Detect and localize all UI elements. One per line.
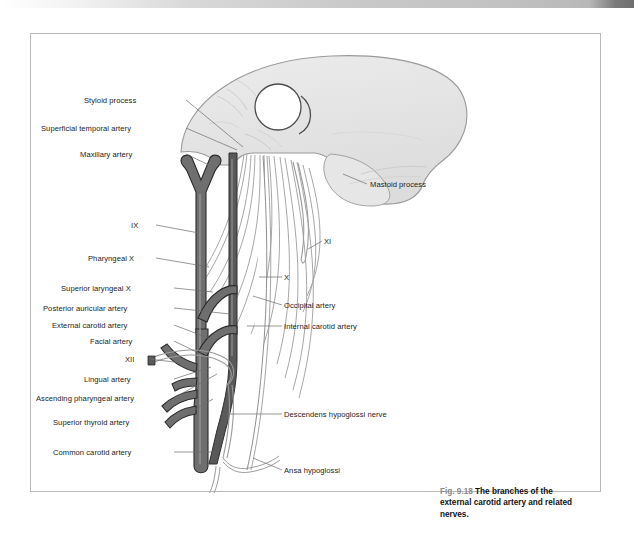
label-maxillary-artery: Maxillary artery bbox=[80, 150, 132, 159]
leader-line-ansa-hypoglossi bbox=[253, 458, 282, 470]
label-internal-carotid-artery: Internal carotid artery bbox=[284, 322, 357, 331]
nerve-xii-marker bbox=[148, 356, 155, 365]
label-descendens-hypoglossi: Descendens hypoglossi nerve bbox=[284, 410, 387, 419]
label-styloid-process: Styloid process bbox=[84, 96, 136, 105]
leader-line-nerve-ix bbox=[156, 225, 199, 233]
figure-frame: Styloid processSuperficial temporal arte… bbox=[30, 33, 601, 492]
figure-caption: Fig. 9.18 The branches of the external c… bbox=[440, 486, 586, 520]
label-ansa-hypoglossi: Ansa hypoglossi bbox=[284, 466, 340, 475]
label-mastoid-process: Mastoid process bbox=[370, 180, 426, 189]
label-nerve-xi: XI bbox=[324, 237, 331, 246]
figure-number: Fig. 9.18 bbox=[440, 487, 473, 496]
label-superior-laryngeal-x: Superior laryngeal X bbox=[61, 284, 131, 293]
label-superficial-temporal-artery: Superficial temporal artery bbox=[41, 124, 131, 133]
label-occipital-artery: Occipital artery bbox=[284, 301, 335, 310]
label-nerve-xii: XII bbox=[125, 355, 134, 364]
label-superior-thyroid-artery: Superior thyroid artery bbox=[53, 418, 129, 427]
label-lingual-artery: Lingual artery bbox=[84, 375, 131, 384]
label-posterior-auricular-artery: Posterior auricular artery bbox=[43, 304, 127, 313]
label-nerve-x: X bbox=[284, 273, 289, 282]
label-ascending-pharyngeal-artery: Ascending pharyngeal artery bbox=[36, 394, 134, 403]
label-facial-artery: Facial artery bbox=[90, 337, 132, 346]
label-common-carotid-artery: Common carotid artery bbox=[53, 448, 131, 457]
label-nerve-ix: IX bbox=[131, 221, 138, 230]
label-pharyngeal-x: Pharyngeal X bbox=[88, 254, 134, 263]
page-header-gradient-bar bbox=[0, 0, 634, 8]
leader-line-superior-laryngeal-x bbox=[174, 288, 213, 292]
label-external-carotid-artery: External carotid artery bbox=[52, 321, 127, 330]
